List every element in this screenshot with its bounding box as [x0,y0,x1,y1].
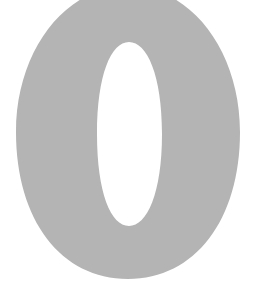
zero-glyph-icon [0,0,262,290]
digit-zero-graphic: 0 [0,0,262,290]
zero-shape [16,0,240,279]
